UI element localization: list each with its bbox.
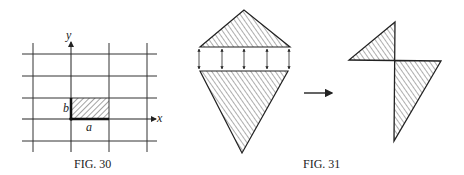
fig31-caption: FIG. 31 xyxy=(303,157,340,172)
fig30-caption: FIG. 30 xyxy=(74,157,111,172)
fig31-bottom-triangle xyxy=(200,71,288,153)
fig30-origin-dot xyxy=(69,117,73,121)
fig30-a-label: a xyxy=(86,120,92,135)
fig31-gap-arrows xyxy=(199,49,289,69)
fig30-y-label: y xyxy=(66,28,71,43)
fig30-x-label: x xyxy=(157,111,162,126)
fig30-grid xyxy=(22,43,157,152)
diagram-canvas xyxy=(0,0,464,175)
fig30-shaded-rectangle xyxy=(71,98,109,119)
fig31-result-kite xyxy=(349,22,441,141)
fig30-b-label: b xyxy=(63,101,69,116)
fig31-top-triangle xyxy=(200,10,290,47)
